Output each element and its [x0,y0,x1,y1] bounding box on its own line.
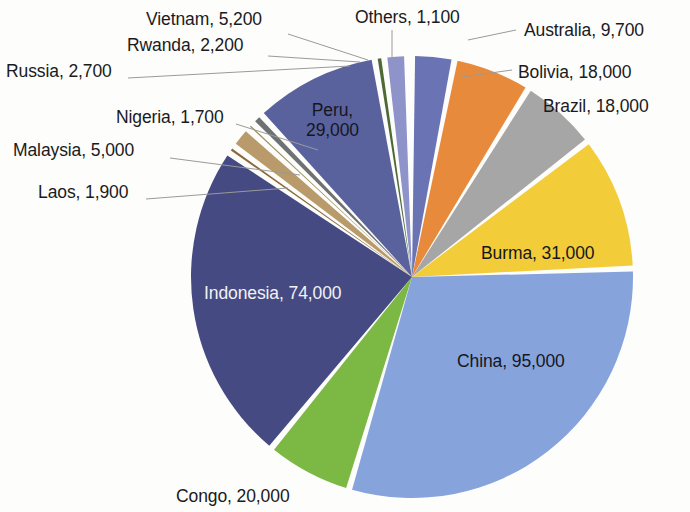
slice-label-brazil: Brazil, 18,000 [543,97,649,117]
pie-chart-figure: Vietnam, 5,200 Rwanda, 2,200 Russia, 2,7… [0,0,690,512]
slice-label-burma: Burma, 31,000 [481,244,595,264]
leader-line-1 [268,56,360,62]
pie-slices-group [191,56,633,498]
leader-line-0 [288,34,368,60]
slice-label-china: China, 95,000 [457,352,565,372]
slice-label-malaysia: Malaysia, 5,000 [13,141,134,161]
slice-label-russia: Russia, 2,700 [6,62,112,82]
slice-label-nigeria: Nigeria, 1,700 [116,108,224,128]
slice-label-bolivia: Bolivia, 18,000 [518,63,631,83]
slice-label-laos: Laos, 1,900 [38,183,128,203]
slice-label-vietnam: Vietnam, 5,200 [146,10,262,30]
slice-label-australia: Australia, 9,700 [524,21,644,41]
leader-line-7 [468,30,516,40]
slice-label-rwanda: Rwanda, 2,200 [127,36,243,56]
slice-label-indonesia: Indonesia, 74,000 [204,284,341,304]
slice-label-peru-line2: 29,000 [306,120,359,140]
slice-label-peru-line1: Peru, [312,100,353,120]
leader-line-2 [128,66,350,78]
slice-label-peru: Peru, 29,000 [306,101,359,140]
slice-label-congo: Congo, 20,000 [176,487,290,507]
slice-label-others: Others, 1,100 [355,8,460,28]
